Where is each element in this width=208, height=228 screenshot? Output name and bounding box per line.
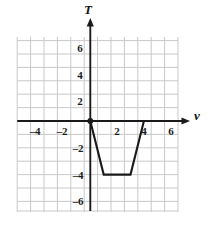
x-axis-label-v: v — [194, 109, 200, 122]
y-axis-arrowhead — [87, 18, 94, 27]
x-tick-label-neg4: –4 — [30, 126, 41, 137]
y-tick-label-neg4: –4 — [73, 170, 84, 181]
x-axis-arrowhead — [182, 117, 191, 124]
endpoint-dot-origin — [87, 118, 93, 124]
x-tick-label-6: 6 — [168, 126, 173, 137]
y-tick-label-2: 2 — [77, 96, 82, 107]
y-tick-label-6: 6 — [77, 43, 82, 54]
y-tick-label-neg2: –2 — [73, 143, 84, 154]
coordinate-plane — [0, 0, 208, 228]
x-tick-label-neg2: –2 — [57, 126, 68, 137]
y-tick-label-neg6: –6 — [73, 196, 84, 207]
y-tick-label-4: 4 — [77, 70, 82, 81]
x-tick-label-4: 4 — [141, 126, 146, 137]
graph-figure: –4 –2 2 4 6 6 4 2 –2 –4 –6 T v — [0, 0, 208, 228]
x-tick-label-2: 2 — [114, 126, 119, 137]
grid-vertical-lines — [17, 37, 178, 212]
y-axis-label-T: T — [84, 3, 92, 16]
